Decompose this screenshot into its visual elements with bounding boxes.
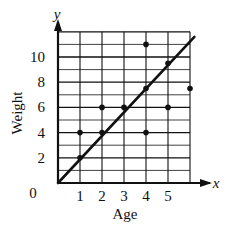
y-tick-labels: 246810 [30, 49, 46, 166]
data-point [99, 105, 105, 111]
x-axis-arrow-icon [200, 179, 212, 187]
data-point [143, 130, 149, 136]
x-axis-label: Age [113, 206, 138, 222]
x-tick-label: 4 [142, 188, 150, 204]
y-tick-label: 2 [38, 150, 46, 166]
y-tick-label: 8 [38, 74, 46, 90]
y-axis-label: Weight [9, 91, 25, 135]
y-tick-label: 6 [38, 99, 46, 115]
data-point [143, 42, 149, 48]
scatter-chart: 246810 12345 0 x y Age Weight [0, 0, 228, 228]
data-point [77, 130, 83, 136]
data-point [165, 105, 171, 111]
x-tick-labels: 12345 [76, 188, 172, 204]
y-axis-variable: y [52, 6, 61, 22]
data-point [77, 155, 83, 161]
origin-label: 0 [29, 185, 37, 201]
x-tick-label: 2 [98, 188, 106, 204]
x-tick-label: 1 [76, 188, 84, 204]
y-tick-label: 4 [38, 125, 46, 141]
data-point [99, 130, 105, 136]
y-tick-label: 10 [30, 49, 45, 65]
data-point [143, 86, 149, 92]
trend-line [58, 37, 194, 183]
data-point [121, 105, 127, 111]
data-point [187, 86, 193, 92]
x-tick-label: 3 [120, 188, 128, 204]
data-point [165, 61, 171, 67]
x-axis-variable: x [212, 175, 220, 191]
x-tick-label: 5 [164, 188, 172, 204]
